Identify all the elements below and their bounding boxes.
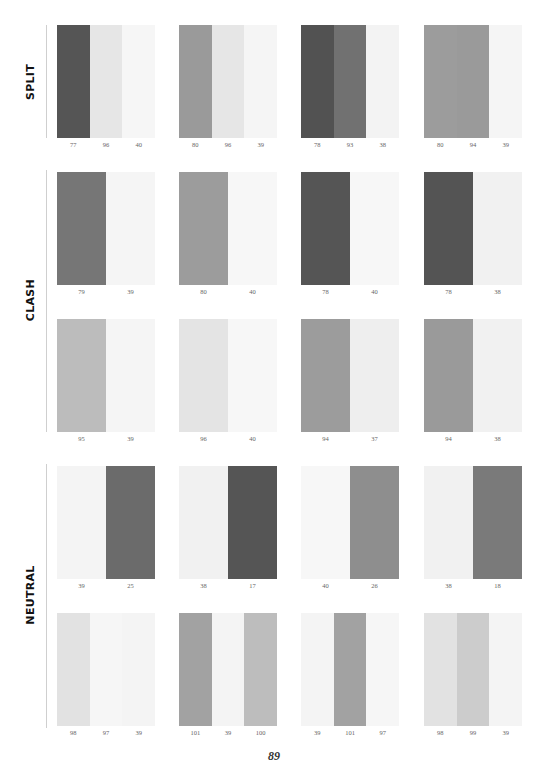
swatch-value: 39 (106, 435, 155, 445)
swatch-stripe (350, 319, 399, 432)
swatch-value: 39 (106, 288, 155, 298)
swatch-value-labels: 809639 (179, 141, 277, 151)
color-swatch (301, 319, 399, 432)
swatch-value: 78 (424, 288, 473, 298)
color-swatch (424, 613, 522, 726)
swatch-value: 26 (350, 582, 399, 592)
color-swatch (424, 25, 522, 138)
swatch-value: 40 (228, 435, 277, 445)
section-rule-clash (46, 170, 47, 432)
color-swatch (301, 25, 399, 138)
swatch-stripe (334, 613, 367, 726)
swatch-stripe (424, 613, 457, 726)
swatch-value: 94 (424, 435, 473, 445)
color-swatch (179, 613, 277, 726)
swatch-stripe (301, 319, 350, 432)
swatch-value-labels: 989739 (57, 729, 155, 739)
swatch-stripe (228, 319, 277, 432)
section-label-neutral: NEUTRAL (24, 555, 38, 635)
swatch-value: 78 (301, 288, 350, 298)
swatch-value: 39 (212, 729, 245, 739)
swatch-value-labels: 9438 (424, 435, 522, 445)
swatch-value-labels: 7840 (301, 288, 399, 298)
swatch-value: 100 (244, 729, 277, 739)
swatch-stripe (57, 613, 90, 726)
swatch-stripe (366, 613, 399, 726)
swatch-value: 38 (424, 582, 473, 592)
swatch-value: 38 (473, 288, 522, 298)
color-swatch (57, 25, 155, 138)
swatch-stripe (106, 466, 155, 579)
page-number: 89 (0, 749, 548, 764)
swatch-value-labels: 3817 (179, 582, 277, 592)
section-label-split: SPLIT (24, 52, 38, 112)
swatch-stripe (90, 25, 123, 138)
swatch-stripe (424, 319, 473, 432)
swatch-value: 38 (366, 141, 399, 151)
swatch-value: 98 (57, 729, 90, 739)
swatch-value: 97 (366, 729, 399, 739)
swatch-value: 39 (244, 141, 277, 151)
swatch-stripe (57, 172, 106, 285)
swatch-value: 94 (457, 141, 490, 151)
swatch-stripe (179, 466, 228, 579)
swatch-stripe (457, 25, 490, 138)
swatch-value: 40 (228, 288, 277, 298)
swatch-stripe (106, 319, 155, 432)
swatch-value: 96 (90, 141, 123, 151)
swatch-value: 80 (179, 141, 212, 151)
swatch-stripe (57, 25, 90, 138)
swatch-stripe (212, 613, 245, 726)
color-swatch (301, 613, 399, 726)
swatch-value: 80 (424, 141, 457, 151)
color-swatch (301, 466, 399, 579)
swatch-value: 37 (350, 435, 399, 445)
swatch-stripe (228, 466, 277, 579)
swatch-value: 25 (106, 582, 155, 592)
swatch-stripe (179, 613, 212, 726)
swatch-value: 101 (179, 729, 212, 739)
swatch-stripe (334, 25, 367, 138)
color-swatch (57, 172, 155, 285)
color-swatch (301, 172, 399, 285)
swatch-value-labels: 789338 (301, 141, 399, 151)
swatch-stripe (212, 25, 245, 138)
swatch-stripe (489, 25, 522, 138)
swatch-stripe (473, 466, 522, 579)
swatch-stripe (179, 25, 212, 138)
swatch-value: 40 (122, 141, 155, 151)
swatch-stripe (179, 172, 228, 285)
swatch-value: 94 (301, 435, 350, 445)
swatch-value: 99 (457, 729, 490, 739)
swatch-value: 18 (473, 582, 522, 592)
swatch-value: 80 (179, 288, 228, 298)
swatch-value-labels: 9640 (179, 435, 277, 445)
swatch-value: 79 (57, 288, 106, 298)
color-swatch (424, 466, 522, 579)
color-swatch (179, 466, 277, 579)
swatch-value-labels: 7939 (57, 288, 155, 298)
swatch-value: 40 (301, 582, 350, 592)
swatch-value: 38 (473, 435, 522, 445)
swatch-stripe (473, 319, 522, 432)
swatch-stripe (122, 25, 155, 138)
swatch-value-labels: 9539 (57, 435, 155, 445)
swatch-stripe (179, 319, 228, 432)
section-label-clash: CLASH (24, 270, 38, 330)
color-swatch (179, 319, 277, 432)
swatch-value: 39 (489, 729, 522, 739)
swatch-value: 95 (57, 435, 106, 445)
color-swatch (179, 172, 277, 285)
swatch-stripe (228, 172, 277, 285)
swatch-stripe (366, 25, 399, 138)
swatch-stripe (122, 613, 155, 726)
section-rule-split (46, 25, 47, 138)
swatch-value: 39 (57, 582, 106, 592)
swatch-stripe (90, 613, 123, 726)
swatch-value: 97 (90, 729, 123, 739)
swatch-value-labels: 7838 (424, 288, 522, 298)
swatch-value-labels: 8040 (179, 288, 277, 298)
color-swatch (57, 466, 155, 579)
swatch-value-labels: 9437 (301, 435, 399, 445)
swatch-value: 39 (301, 729, 334, 739)
